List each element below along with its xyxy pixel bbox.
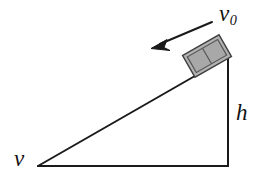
block-icon: [183, 35, 232, 78]
label-height: h: [236, 101, 248, 124]
velocity-arrow-shaft: [160, 22, 212, 44]
physics-diagram-figure: v0 h v: [0, 0, 263, 179]
label-initial-velocity-symbol: v: [219, 1, 229, 26]
label-initial-velocity-subscript: 0: [229, 12, 237, 28]
label-initial-velocity: v0: [219, 2, 237, 28]
label-final-velocity: v: [14, 147, 24, 170]
